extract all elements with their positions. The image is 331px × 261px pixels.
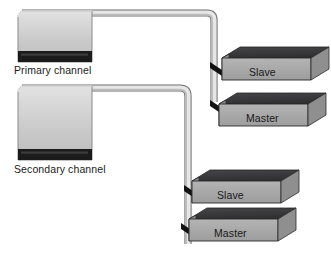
connector-pin-row xyxy=(21,54,88,56)
diagram-canvas xyxy=(0,0,331,261)
connector-body xyxy=(18,86,92,160)
ide-cabling-diagram: Primary channel Secondary channel Slave … xyxy=(0,0,331,261)
primary-channel-label: Primary channel xyxy=(14,64,91,76)
secondary-channel-label: Secondary channel xyxy=(14,163,106,175)
drive-label-secondary-slave: Slave xyxy=(217,189,244,201)
connector-pin-row xyxy=(21,152,88,154)
drive-label-secondary-master: Master xyxy=(214,227,247,239)
drive-label-primary-slave: Slave xyxy=(249,66,276,78)
connector-contact-band xyxy=(18,149,92,160)
connector-contact-band xyxy=(18,51,92,62)
primary-channel-connector xyxy=(18,11,92,62)
secondary-channel-connector xyxy=(18,86,92,160)
drive-label-primary-master: Master xyxy=(246,112,279,124)
